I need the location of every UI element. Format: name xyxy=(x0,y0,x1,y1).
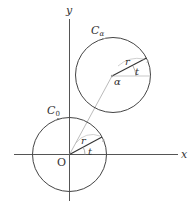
c-alpha-radius-label: r xyxy=(125,56,131,67)
diagram-canvas: x y O C0 Cα r t r t α xyxy=(0,0,196,207)
c-alpha-radius-arc xyxy=(118,58,144,66)
c0-radius-label: r xyxy=(81,135,87,146)
c0-label: C0 xyxy=(47,104,60,118)
c0-angle-label: t xyxy=(88,146,93,157)
c-alpha-angle-label: t xyxy=(135,66,140,77)
x-axis-label: x xyxy=(181,148,188,161)
c0-angle-arc xyxy=(83,147,85,154)
origin-label: O xyxy=(57,156,66,169)
alpha-point xyxy=(111,75,113,77)
c-alpha-label: Cα xyxy=(91,24,104,38)
alpha-center-label: α xyxy=(114,76,121,87)
y-axis-label: y xyxy=(65,4,73,17)
